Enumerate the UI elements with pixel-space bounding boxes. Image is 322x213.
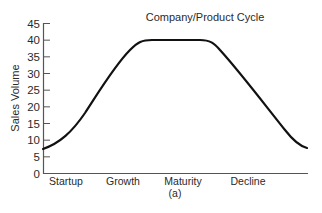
y-axis-ticks: 051015202530354045 (27, 18, 50, 180)
y-tick-label: 30 (27, 68, 40, 80)
y-tick-label: 40 (27, 34, 40, 46)
y-tick-label: 20 (27, 101, 40, 113)
y-tick-label: 5 (34, 151, 40, 163)
y-tick-label: 10 (27, 134, 40, 146)
y-tick-label: 35 (27, 51, 40, 63)
y-axis-label: Sales Volume (9, 64, 21, 131)
x-category-label: Maturity (164, 175, 202, 187)
product-cycle-chart: Company/Product Cycle Sales Volume 05101… (0, 0, 322, 213)
x-category-label: Decline (230, 175, 265, 187)
x-category-label: Growth (106, 175, 140, 187)
sales-curve (43, 40, 307, 149)
x-axis-categories: StartupGrowthMaturityDecline (49, 175, 266, 187)
figure-caption: (a) (169, 187, 182, 199)
y-tick-label: 0 (34, 168, 40, 180)
x-category-label: Startup (49, 175, 83, 187)
y-tick-label: 15 (27, 118, 40, 130)
y-tick-label: 25 (27, 84, 40, 96)
y-tick-label: 45 (27, 18, 40, 30)
chart-title: Company/Product Cycle (146, 11, 265, 23)
